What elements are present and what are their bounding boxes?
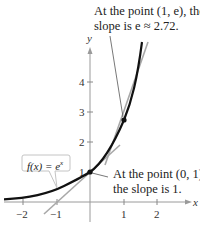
point-1-e bbox=[121, 117, 126, 122]
point-0-1 bbox=[87, 169, 92, 174]
x-axis-label: x bbox=[192, 196, 198, 208]
function-label-exponent: x bbox=[60, 159, 63, 167]
function-label: f(x) = ex bbox=[27, 156, 63, 174]
tick-x-2: 2 bbox=[154, 208, 160, 220]
annotation-top: At the point (1, e), the slope is e ≈ 2.… bbox=[94, 4, 200, 34]
annotation-right-line1: At the point (0, 1), bbox=[113, 167, 200, 182]
annotation-right: At the point (0, 1), the slope is 1. bbox=[113, 167, 200, 197]
tick-x-minus-2: −2 bbox=[16, 208, 28, 220]
tick-y-2: 2 bbox=[79, 136, 85, 148]
tick-x-1: 1 bbox=[121, 208, 127, 220]
tick-y-3: 3 bbox=[79, 106, 85, 118]
annotation-top-line1: At the point (1, e), the bbox=[94, 4, 200, 19]
y-axis bbox=[87, 47, 93, 222]
leader-line-top bbox=[110, 36, 123, 117]
function-label-text: f(x) = e bbox=[27, 160, 60, 172]
tick-x-minus-1: −1 bbox=[50, 208, 62, 220]
tick-y-4: 4 bbox=[79, 76, 85, 88]
y-axis-label: y bbox=[86, 32, 92, 44]
annotation-top-line2: slope is e ≈ 2.72. bbox=[94, 19, 200, 34]
annotation-right-line2: the slope is 1. bbox=[113, 182, 200, 197]
leader-line-right bbox=[92, 173, 108, 177]
x-axis bbox=[4, 199, 192, 205]
